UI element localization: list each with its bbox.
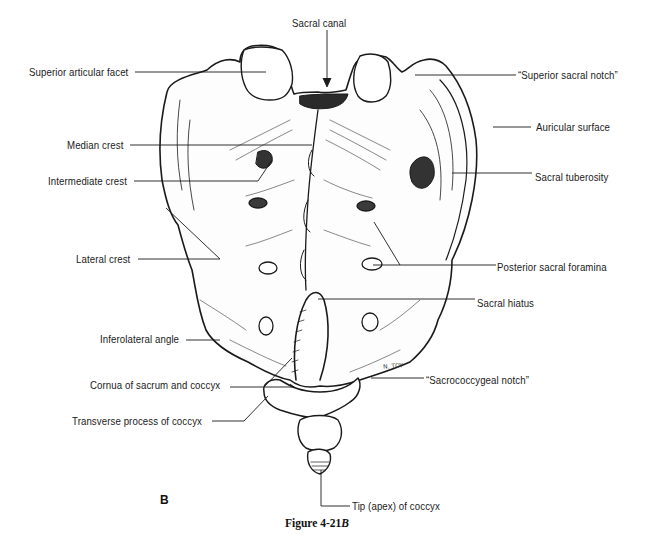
label-sacral-hiatus: Sacral hiatus xyxy=(477,297,534,309)
label-median-crest: Median crest xyxy=(67,139,123,151)
label-superior-sacral-notch: “Superior sacral notch” xyxy=(518,69,618,81)
caption-suffix: B xyxy=(341,517,349,529)
label-lateral-crest: Lateral crest xyxy=(76,253,130,265)
left-foramen-1 xyxy=(249,198,267,208)
label-cornua: Cornua of sacrum and coccyx xyxy=(90,379,220,391)
artist-signature: N. TOY xyxy=(383,361,403,369)
label-transverse-process: Transverse process of coccyx xyxy=(72,415,202,427)
left-articular-facet xyxy=(241,47,292,100)
label-intermediate-crest: Intermediate crest xyxy=(48,175,127,187)
panel-letter: B xyxy=(160,493,169,507)
right-foramen-2 xyxy=(362,258,382,270)
sacrum-coccyx-illustration xyxy=(0,0,649,552)
label-sacrococcygeal-notch: “Sacrococcygeal notch” xyxy=(426,374,529,386)
label-posterior-sacral-foramina: Posterior sacral foramina xyxy=(497,261,607,273)
left-foramen-3 xyxy=(259,317,273,335)
label-auricular-surface: Auricular surface xyxy=(536,121,610,133)
left-foramen-2 xyxy=(259,262,277,274)
right-foramen-3 xyxy=(362,313,378,331)
right-articular-facet xyxy=(354,54,391,102)
label-inferolateral-angle: Inferolateral angle xyxy=(100,333,179,345)
right-foramen-1 xyxy=(357,201,375,211)
label-sacral-tuberosity: Sacral tuberosity xyxy=(535,171,609,183)
label-superior-articular-facet: Superior articular facet xyxy=(29,66,128,78)
figure-caption: Figure 4-21B xyxy=(285,517,349,529)
label-sacral-canal: Sacral canal xyxy=(292,17,346,29)
caption-prefix: Figure 4-21 xyxy=(285,517,341,529)
coccyx-second-segment xyxy=(298,416,341,452)
label-tip-of-coccyx: Tip (apex) of coccyx xyxy=(352,500,440,512)
